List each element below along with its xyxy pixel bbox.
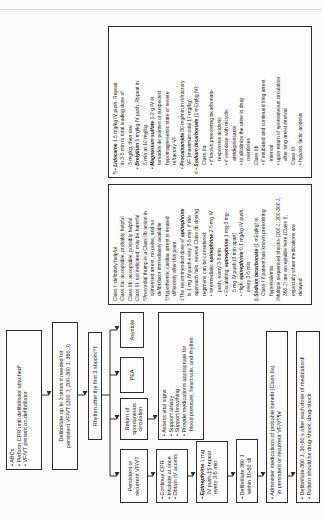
text-line: hypomagnesemic state or severe: [164, 30, 171, 174]
text-line: spontaneous: [131, 401, 138, 437]
branch-box-persistent-vfvt: Persistent orrecurrent VF/VT: [120, 449, 148, 503]
flow-box-epinephrine: • Epinephrine 1 mgIV push,‡§ repeatevery…: [196, 441, 228, 503]
text-line: • Perform CPR until defibrillator attach…: [16, 334, 23, 466]
flow-box-continue-cpr: • Continue CPR• Intubate at once• Obtain…: [156, 449, 188, 503]
flow-box-administer-medications: • Administer medications of probable ben…: [266, 331, 288, 503]
asystole-label: Asystole: [129, 315, 136, 345]
text-line: in persistent or recurrent VF/VT¶#: [276, 335, 283, 499]
text-line: # • Sodium bicarbonate (1 mEq/kg IV):: [193, 30, 200, 174]
text-line: § Sodium bicarbonate (1 mEq/kg) is: [253, 188, 260, 301]
text-line: delayed: [297, 188, 304, 301]
text-line: is 1 mg IV push every 3-5 min. If this: [186, 188, 193, 301]
text-line: ‖Multiple sequenced shocks (200 J, 200-3…: [275, 188, 282, 301]
text-line: 5 mg IV push (3 min apart): [231, 188, 238, 301]
text-line: • VF/VT present on defibrillator: [22, 334, 29, 466]
text-line: after long arrest interval: [282, 30, 289, 174]
text-line: antidepressants: [231, 30, 238, 174]
flow-box-drug-shock-pattern: • Defibrillate 360 J, 30-60 s after each…: [296, 331, 320, 503]
text-line: Class IIa: acceptable, probably helpful: [119, 188, 126, 301]
text-line: • Obtain IV access: [172, 453, 179, 499]
text-line: • Support airway: [168, 316, 175, 436]
text-line: Defibrillate up to 3 times if needed for: [58, 325, 65, 467]
text-line: persistent VF/VT (200 J, 200-300 J, 360 …: [65, 325, 72, 467]
text-line: Class IIa: [201, 30, 208, 174]
text-line: ‡The recommended dose of epinephrine: [179, 188, 186, 301]
text-line: overdoses: [245, 30, 252, 174]
text-line: Persistent or: [127, 452, 134, 500]
text-line: Class IIb: acceptable, possibly helpful: [127, 188, 134, 301]
text-line: • High: epinephrine 0.1 mg/kg IV push,: [238, 188, 245, 301]
text-line: • Defibrillate 360 J: [239, 443, 246, 499]
flow-box-rhythm-check: Rhythm after the first 3 shocks?†: [88, 332, 102, 440]
text-line: *Precordial thump is a Class IIb action …: [142, 188, 149, 301]
text-line: 5 min at 10 mg/kg: [142, 30, 149, 174]
text-line: approach fails, several Class IIb dosing: [193, 188, 200, 301]
text-line: within 30-60 s‖: [246, 443, 253, 499]
text-line: interval: [268, 30, 275, 174]
flow-box-post-resuscitation-care: • Assess vital signs• Support airway• Su…: [158, 312, 204, 440]
rhythm-check-label: Rhythm after the first 3 shocks?†: [92, 335, 99, 437]
text-line: circulation: [137, 401, 144, 437]
text-line: • upon return of spontaneous circulation: [275, 30, 282, 174]
text-line: especially when medications are: [290, 188, 297, 301]
text-line: 3 mg/kg, then use: [127, 30, 134, 174]
text-line: • if overdose with tricyclic: [223, 30, 230, 174]
text-line: • Epinephrine 1 mg: [199, 445, 206, 499]
text-line: push, every 3-5 min: [216, 188, 223, 301]
pea-label: PEA: [129, 360, 136, 390]
text-line: • Continue CPR: [159, 453, 166, 499]
footnotes-class-definitions-panel: Class I: definitely helpfulClass IIa: ac…: [108, 184, 312, 305]
text-line: torsades de pointes or suspected: [156, 30, 163, 174]
flow-box-defibrillate-360: • Defibrillate 360 Jwithin 30-60 s‖: [236, 439, 258, 503]
text-line: • Bretylium 5 mg/kg IV push. Repeat in: [134, 30, 141, 174]
flow-box-abcs: • ABCs• Perform CPR until defibrillator …: [6, 330, 42, 470]
text-line: • to alkalinize the urine in drug: [238, 30, 245, 174]
text-line: • if intubated and continued long arrest: [260, 30, 267, 174]
text-line: regimens can be considered:: [201, 188, 208, 301]
text-line: • if known preexisting bicarbonate-: [208, 30, 215, 174]
flow-box-defibrillate-3-shocks: Defibrillate up to 3 times if needed for…: [52, 322, 78, 470]
vf-vt-algorithm-flowchart: • ABCs• Perform CPR until defibrillator …: [0, 0, 322, 519]
text-line: differently after this point.: [171, 188, 178, 301]
text-line: every 3-5 min: [212, 445, 219, 499]
text-line: • ABCs: [9, 334, 16, 466]
text-line: every 3-5 min: [245, 188, 252, 301]
text-line: ¶ • Lidocaine 1.5 mg/kg IV push. Repeat: [112, 30, 119, 174]
text-line: Class IIb: [253, 30, 260, 174]
text-line: recurrent VF/VT: [134, 452, 141, 500]
text-line: 360 J) are acceptable here (Class I),: [282, 188, 289, 301]
text-line: • Assess vital signs: [161, 316, 168, 436]
text-line: witnessed arrest, no pulse, and no: [149, 188, 156, 301]
branch-box-pea: PEA: [120, 357, 144, 393]
text-line: Return of: [124, 401, 131, 437]
text-line: • Provide medications appropriate for: [181, 316, 188, 436]
text-line: • Administer medications of probable ben…: [269, 335, 276, 499]
text-line: • Support breathing: [174, 316, 181, 436]
branch-box-return-spontaneous-circulation: Return ofspontaneouscirculation: [120, 398, 148, 440]
text-line: Class III: not indicated, may be harmful: [134, 188, 141, 301]
text-line: VF (maximum total 17 mg/kg): [186, 30, 193, 174]
text-line: refractory VF: [171, 30, 178, 174]
text-line: • hypoxic lactic acidosis: [297, 30, 304, 174]
text-line: • Intubate at once: [166, 453, 173, 499]
text-line: Class III: [290, 30, 297, 174]
text-line: Class I if patient has known preexisting: [260, 188, 267, 301]
branch-box-asystole: Asystole: [120, 312, 144, 348]
text-line: • Pattern should be drug-shock, drug-sho…: [306, 335, 313, 499]
text-line: defibrillator immediately available: [156, 188, 163, 301]
text-line: • Intermediate: epinephrine 2-5 mg IV: [208, 188, 215, 301]
text-line: hyperkalemia: [268, 188, 275, 301]
text-line: • Magnesium sulfate 1-2 g IV in: [149, 30, 156, 174]
text-line: in 3-5 min to total loading dose of: [119, 30, 126, 174]
text-line: blood pressure, heart rate, and rhythm: [188, 316, 195, 436]
footnotes-medications-panel: ¶ • Lidocaine 1.5 mg/kg IV push. Repeati…: [108, 26, 312, 178]
text-line: • Escalating: epinephrine 1 mg-3 mg-: [223, 188, 230, 301]
text-line: responsive acidosis: [216, 30, 223, 174]
text-line: • Defibrillate 360 J, 30-60 s after each…: [299, 335, 306, 499]
text-line: †Hypothermic cardiac arrest is treated: [164, 188, 171, 301]
text-line: Class I: definitely helpful: [112, 188, 119, 301]
text-line: IV push,‡§ repeat: [206, 445, 213, 499]
text-line: • Procainamide 30 mg/min in refractory: [179, 30, 186, 174]
